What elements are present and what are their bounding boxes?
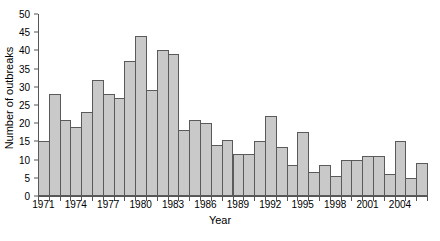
y-axis-label: Number of outbreaks (2, 0, 16, 196)
x-axis-tick (92, 197, 93, 201)
x-axis-tick (351, 197, 352, 201)
x-axis-tick-label: 1974 (65, 199, 87, 210)
plot-area (38, 14, 427, 196)
x-axis-tick (287, 197, 288, 201)
x-axis-tick-label: 1995 (292, 199, 314, 210)
x-axis-tick (124, 197, 125, 201)
x-axis-tick (384, 197, 385, 201)
x-axis-tick (189, 197, 190, 201)
x-axis-tick (254, 197, 255, 201)
x-axis-tick (319, 197, 320, 201)
x-axis-tick (416, 197, 417, 201)
x-axis-tick-label: 1983 (162, 199, 184, 210)
x-axis-label: Year (0, 214, 440, 226)
bar (416, 163, 428, 196)
chart-figure: Number of outbreaks 05101520253035404550… (0, 0, 440, 241)
x-axis-tick-label: 1989 (227, 199, 249, 210)
x-axis-tick-label: 2004 (389, 199, 411, 210)
x-axis-tick-label: 1971 (32, 199, 54, 210)
x-axis-tick-label: 2001 (356, 199, 378, 210)
x-axis-tick-label: 1992 (259, 199, 281, 210)
x-axis-tick-label: 1998 (324, 199, 346, 210)
x-axis-tick-label: 1986 (194, 199, 216, 210)
x-axis-tick-label: 1980 (130, 199, 152, 210)
x-axis-tick (157, 197, 158, 201)
x-axis-tick (60, 197, 61, 201)
x-axis-tick-label: 1977 (97, 199, 119, 210)
x-axis-tick (222, 197, 223, 201)
x-axis-tick (427, 197, 428, 201)
